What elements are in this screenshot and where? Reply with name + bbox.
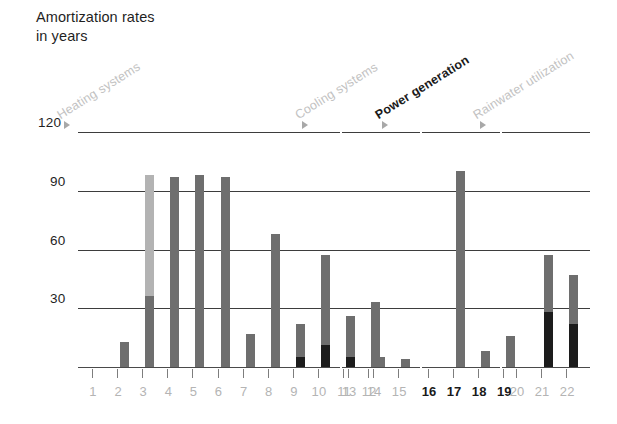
bar-18: [481, 351, 490, 367]
y-axis-label-60: 60: [50, 233, 65, 248]
bar-segment-mid-7: [246, 334, 255, 367]
x-tick-label-4: 4: [156, 384, 180, 399]
bar-segment-mid-19: [506, 336, 515, 367]
x-axis-baseline-cooling: [342, 367, 420, 368]
gridline-120: [78, 132, 340, 133]
x-tick-label-9: 9: [282, 384, 306, 399]
x-tick-17: [453, 369, 454, 378]
x-tick-label-6: 6: [207, 384, 231, 399]
bar-5: [195, 175, 204, 367]
bar-8: [271, 234, 280, 367]
x-tick-2: [117, 369, 118, 378]
bar-2: [120, 342, 129, 367]
bar-segment-mid-5: [195, 175, 204, 367]
gridline-90: [78, 191, 590, 192]
x-tick-label-7: 7: [232, 384, 256, 399]
x-tick-label-18: 18: [467, 384, 491, 399]
x-tick-9: [293, 369, 294, 378]
x-tick-20: [516, 369, 517, 378]
x-tick-label-5: 5: [181, 384, 205, 399]
x-tick-16: [428, 369, 429, 378]
section-label-cooling: Cooling systems: [293, 60, 381, 122]
bar-segment-mid-11: [346, 316, 355, 357]
y-axis-label-30: 30: [50, 291, 65, 306]
plot-area: 306090120Heating systemsCooling systemsP…: [0, 0, 617, 424]
bar-segment-dark-21: [544, 312, 553, 367]
section-label-heating: Heating systems: [55, 60, 143, 122]
gridline-30: [78, 308, 590, 309]
x-tick-10: [318, 369, 319, 378]
gridline-120: [502, 132, 590, 133]
bar-11: [346, 316, 355, 367]
x-tick-12: [368, 369, 369, 378]
x-tick-label-8: 8: [257, 384, 281, 399]
x-tick-label-20: 20: [505, 384, 529, 399]
bar-9: [296, 324, 305, 367]
bar-segment-mid-14: [376, 357, 385, 367]
bar-segment-mid-8: [271, 234, 280, 367]
gridline-60: [78, 250, 590, 251]
bar-segment-dark-22: [569, 324, 578, 367]
bar-7: [246, 334, 255, 367]
bar-3: [145, 175, 154, 367]
x-tick-5: [192, 369, 193, 378]
x-tick-label-21: 21: [530, 384, 554, 399]
bar-6: [221, 177, 230, 367]
bar-segment-mid-10: [321, 255, 330, 345]
bar-segment-dark-9: [296, 357, 305, 367]
x-tick-14: [373, 369, 374, 378]
bar-segment-dark-10: [321, 345, 330, 367]
x-tick-22: [566, 369, 567, 378]
x-tick-label-1: 1: [81, 384, 105, 399]
x-tick-8: [268, 369, 269, 378]
bar-19: [506, 336, 515, 367]
bar-segment-mid-15: [401, 359, 410, 367]
gridline-120: [422, 132, 500, 133]
bar-segment-mid-2: [120, 342, 129, 367]
triangle-right-marker-rainwater: [480, 121, 486, 129]
bar-21: [544, 255, 553, 367]
x-tick-18: [478, 369, 479, 378]
x-tick-label-10: 10: [307, 384, 331, 399]
x-tick-13: [348, 369, 349, 378]
triangle-right-marker-cooling: [302, 121, 308, 129]
bar-segment-mid-21: [544, 255, 553, 312]
bar-segment-mid-4: [170, 177, 179, 367]
gridline-120: [342, 132, 420, 133]
x-axis-baseline-power: [422, 367, 500, 368]
x-tick-7: [243, 369, 244, 378]
bar-22: [569, 275, 578, 367]
bar-segment-light-3: [145, 175, 154, 296]
y-axis-label-120: 120: [38, 115, 61, 130]
x-tick-11: [343, 369, 344, 378]
bar-segment-mid-6: [221, 177, 230, 367]
chart-figure: Amortization rates in years 306090120Hea…: [0, 0, 617, 424]
x-tick-label-22: 22: [555, 384, 579, 399]
x-tick-4: [167, 369, 168, 378]
bar-4: [170, 177, 179, 367]
x-tick-15: [398, 369, 399, 378]
bar-segment-dark-11: [346, 357, 355, 367]
x-tick-21: [541, 369, 542, 378]
x-tick-1: [92, 369, 93, 378]
x-tick-label-17: 17: [442, 384, 466, 399]
x-tick-label-15: 15: [387, 384, 411, 399]
bar-10: [321, 255, 330, 367]
x-tick-6: [218, 369, 219, 378]
bar-segment-mid-17: [456, 171, 465, 367]
x-tick-label-16: 16: [417, 384, 441, 399]
x-tick-3: [142, 369, 143, 378]
bar-segment-mid-3: [145, 296, 154, 367]
x-tick-label-13: 13: [337, 384, 361, 399]
bar-15: [401, 359, 410, 367]
y-axis-label-90: 90: [50, 174, 65, 189]
bar-14: [376, 357, 385, 367]
section-label-power: Power generation: [373, 53, 472, 122]
x-tick-19: [503, 369, 504, 378]
triangle-right-marker-power: [382, 121, 388, 129]
x-tick-label-2: 2: [106, 384, 130, 399]
bar-segment-mid-18: [481, 351, 490, 367]
section-label-rainwater: Rainwater utilization: [471, 49, 577, 122]
bar-17: [456, 171, 465, 367]
bar-segment-mid-22: [569, 275, 578, 324]
